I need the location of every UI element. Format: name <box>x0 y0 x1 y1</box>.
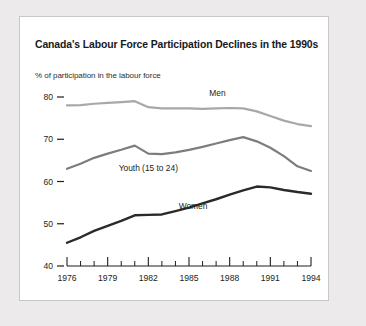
series-label-youth-15-to-24: Youth (15 to 24) <box>119 163 179 173</box>
plot-area: 40506070801976197919821985198819911994Me… <box>20 17 330 302</box>
series-line-youth-15-to-24 <box>67 137 311 171</box>
x-axis-label: 1994 <box>301 273 320 283</box>
chart-card: Canada's Labour Force Participation Decl… <box>19 16 329 301</box>
y-axis-label: 80 <box>43 92 53 102</box>
line-chart-svg: 40506070801976197919821985198819911994Me… <box>20 17 330 302</box>
y-axis-label: 70 <box>43 134 53 144</box>
x-axis-label: 1988 <box>220 273 239 283</box>
x-axis-label: 1982 <box>139 273 158 283</box>
series-line-men <box>67 101 311 126</box>
y-axis-label: 60 <box>43 177 53 187</box>
x-axis-label: 1985 <box>179 273 198 283</box>
series-label-women: Women <box>179 201 208 211</box>
x-axis-label: 1991 <box>261 273 280 283</box>
x-axis-label: 1976 <box>57 273 76 283</box>
y-axis-label: 40 <box>43 261 53 271</box>
y-axis-label: 50 <box>43 219 53 229</box>
series-line-women <box>67 187 311 243</box>
x-axis-label: 1979 <box>98 273 117 283</box>
screenshot-root: Canada's Labour Force Participation Decl… <box>0 0 366 326</box>
series-label-men: Men <box>209 88 226 98</box>
